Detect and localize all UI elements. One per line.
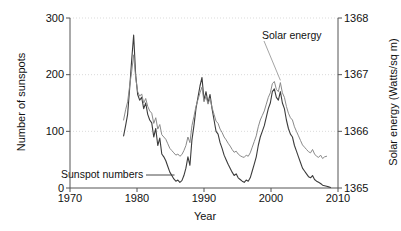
gridlines [70, 18, 338, 131]
axis-lines [70, 18, 338, 188]
chart-plot-area [0, 0, 401, 231]
data-series [124, 35, 331, 187]
tick-marks [66, 18, 342, 192]
chart-figure: Number of sunspots Solar energy (Watts/s… [0, 0, 401, 231]
annotation-leader-lines [146, 41, 280, 175]
